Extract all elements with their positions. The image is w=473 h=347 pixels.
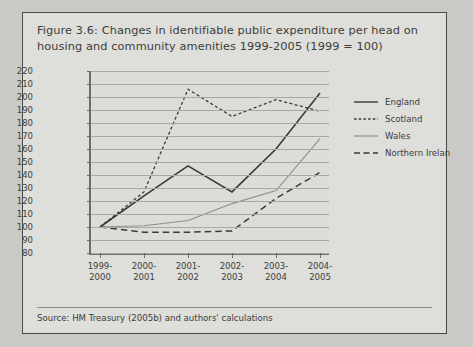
source-note: Source: HM Treasury (2005b) and authors'… — [37, 313, 273, 323]
gridline — [91, 162, 329, 163]
y-axis-tick — [87, 136, 91, 137]
gridline — [91, 84, 329, 85]
x-axis-label: 2002-2003 — [209, 261, 255, 283]
y-axis-label: 80 — [0, 248, 33, 258]
y-axis-label: 150 — [0, 157, 33, 167]
y-axis-label: 90 — [0, 235, 33, 245]
gridline — [91, 240, 329, 241]
gridline — [91, 71, 329, 72]
legend-label-england: England — [385, 97, 420, 107]
gridline — [91, 188, 329, 189]
y-axis-label: 200 — [0, 92, 33, 102]
x-axis-label: 2003-2004 — [253, 261, 299, 283]
gridline — [91, 136, 329, 137]
y-axis-label: 170 — [0, 131, 33, 141]
legend-label-northern-ireland: Northern Irelan — [385, 148, 450, 158]
gridline — [91, 253, 329, 254]
legend-swatch-northern-ireland — [353, 148, 379, 158]
y-axis-label: 120 — [0, 196, 33, 206]
y-axis-tick — [87, 240, 91, 241]
legend-label-wales: Wales — [385, 131, 410, 141]
x-axis-tick — [188, 253, 189, 258]
y-axis-tick — [87, 188, 91, 189]
y-axis-tick — [87, 97, 91, 98]
plot-area: 2202102001901801701601501401301201101009… — [89, 71, 329, 255]
gridline — [91, 201, 329, 202]
y-axis-tick — [87, 175, 91, 176]
y-axis-tick — [87, 227, 91, 228]
gridline — [91, 175, 329, 176]
figure-title: Figure 3.6: Changes in identifiable publ… — [37, 23, 433, 55]
gridline — [91, 123, 329, 124]
y-axis-label: 140 — [0, 170, 33, 180]
y-axis-label: 110 — [0, 209, 33, 219]
gridline — [91, 227, 329, 228]
x-axis-label: 2001-2002 — [165, 261, 211, 283]
series-line-england — [100, 93, 320, 227]
y-axis-tick — [87, 201, 91, 202]
y-axis-tick — [87, 162, 91, 163]
gridline — [91, 214, 329, 215]
x-axis-tick — [144, 253, 145, 258]
y-axis-label: 180 — [0, 118, 33, 128]
legend-item-northern-ireland: Northern Irelan — [353, 144, 473, 161]
x-axis-tick — [320, 253, 321, 258]
y-axis-label: 220 — [0, 66, 33, 76]
y-axis-label: 190 — [0, 105, 33, 115]
y-axis-tick — [87, 149, 91, 150]
y-axis-tick — [87, 71, 91, 72]
legend-label-scotland: Scotland — [385, 114, 422, 124]
figure-container: Figure 3.6: Changes in identifiable publ… — [22, 12, 447, 334]
y-axis-tick — [87, 123, 91, 124]
x-axis-label: 2000-2001 — [121, 261, 167, 283]
y-axis-label: 100 — [0, 222, 33, 232]
legend-item-scotland: Scotland — [353, 110, 473, 127]
x-axis-tick — [100, 253, 101, 258]
source-divider — [37, 307, 432, 308]
y-axis-tick — [87, 253, 91, 254]
x-axis-tick — [276, 253, 277, 258]
legend-swatch-england — [353, 97, 379, 107]
x-axis-tick — [232, 253, 233, 258]
legend-swatch-scotland — [353, 114, 379, 124]
y-axis-tick — [87, 110, 91, 111]
gridline — [91, 149, 329, 150]
y-axis-tick — [87, 84, 91, 85]
chart-legend: England Scotland Wales Northern Irelan — [353, 93, 473, 161]
legend-item-england: England — [353, 93, 473, 110]
x-axis-label: 1999-2000 — [77, 261, 123, 283]
gridline — [91, 97, 329, 98]
y-axis-label: 160 — [0, 144, 33, 154]
y-axis-label: 210 — [0, 79, 33, 89]
series-line-northern-ireland — [100, 172, 320, 232]
y-axis-label: 130 — [0, 183, 33, 193]
y-axis-tick — [87, 214, 91, 215]
gridline — [91, 110, 329, 111]
legend-swatch-wales — [353, 131, 379, 141]
x-axis-label: 2004-2005 — [297, 261, 343, 283]
legend-item-wales: Wales — [353, 127, 473, 144]
